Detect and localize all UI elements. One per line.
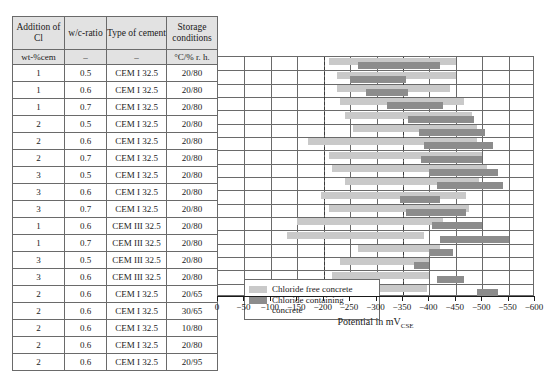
bar-chloride-containing [358, 62, 440, 69]
cell-wc-ratio: 0.5 [65, 252, 107, 269]
bar-chloride-containing [350, 76, 406, 83]
bar-chloride-containing [432, 222, 482, 229]
legend-item-chloride-free: Chloride free concrete [249, 284, 375, 294]
bar-chloride-containing [437, 182, 503, 189]
cell-addition: 3 [13, 167, 65, 184]
bar-chloride-containing [440, 236, 509, 243]
cell-addition: 1 [13, 99, 65, 116]
x-tick [376, 296, 377, 301]
bar-chloride-containing [419, 129, 485, 136]
grid-line [456, 57, 457, 295]
cell-cement-type: CEM I 32.5 [107, 99, 167, 116]
bar-chloride-free [297, 218, 442, 225]
cell-addition: 2 [13, 303, 65, 320]
cell-addition: 3 [13, 252, 65, 269]
cell-cement-type: CEM I 32.5 [107, 184, 167, 201]
cell-wc-ratio: 0.6 [65, 286, 107, 303]
cell-addition: 1 [13, 65, 65, 82]
cell-addition: 1 [13, 82, 65, 99]
cell-storage: 20/80 [167, 184, 218, 201]
cell-storage: 20/80 [167, 150, 218, 167]
cell-storage: 20/80 [167, 167, 218, 184]
legend-swatch-icon-free [249, 286, 267, 293]
table-row: 20.6CEM I 32.520/95 [13, 354, 218, 371]
cell-wc-ratio: 0.5 [65, 65, 107, 82]
cell-addition: 2 [13, 150, 65, 167]
cell-addition: 2 [13, 133, 65, 150]
cell-addition: 1 [13, 218, 65, 235]
unit-addition: wt-%cem [13, 50, 65, 65]
potential-chart: Chloride free concrete Chloride containi… [217, 16, 546, 297]
cell-storage: 20/80 [167, 252, 218, 269]
col-header-storage: Storage conditions [167, 17, 218, 50]
table-row: 20.6CEM I 32.520/80 [13, 133, 218, 150]
col-header-wc-ratio: w/c-ratio [65, 17, 107, 50]
cell-wc-ratio: 0.7 [65, 99, 107, 116]
table-row: 20.5CEM I 32.520/80 [13, 116, 218, 133]
cell-wc-ratio: 0.7 [65, 235, 107, 252]
cell-storage: 20/80 [167, 82, 218, 99]
grid-line [482, 57, 483, 295]
cell-wc-ratio: 0.5 [65, 167, 107, 184]
cell-wc-ratio: 0.6 [65, 184, 107, 201]
bar-chloride-containing [429, 249, 453, 256]
cell-storage: 20/80 [167, 116, 218, 133]
table-header-row: Addition of Cl w/c-ratio Type of cement … [13, 17, 218, 50]
x-axis-title-subscript: CSE [401, 322, 414, 330]
bar-chloride-containing [408, 116, 474, 123]
table-row: 10.6CEM III 32.520/80 [13, 218, 218, 235]
cell-cement-type: CEM I 32.5 [107, 167, 167, 184]
x-tick [534, 296, 535, 301]
cell-wc-ratio: 0.7 [65, 150, 107, 167]
table-row: 30.7CEM I 32.520/80 [13, 201, 218, 218]
bar-chloride-containing [437, 276, 463, 283]
bar-chloride-containing [477, 289, 498, 296]
unit-cement-type: – [107, 50, 167, 65]
x-tick [296, 296, 297, 301]
x-tick [508, 296, 509, 301]
cell-cement-type: CEM I 32.5 [107, 201, 167, 218]
col-header-cement-type: Type of cement [107, 17, 167, 50]
bar-chloride-containing [387, 102, 443, 109]
x-tick [217, 296, 218, 301]
cell-addition: 2 [13, 337, 65, 354]
cell-storage: 20/80 [167, 133, 218, 150]
parameters-table: Addition of Cl w/c-ratio Type of cement … [12, 16, 217, 371]
cell-cement-type: CEM III 32.5 [107, 269, 167, 286]
bar-chloride-containing [400, 196, 440, 203]
bar-chloride-free [332, 272, 430, 279]
table-row: 10.7CEM III 32.520/80 [13, 235, 218, 252]
table-row: 30.6CEM I 32.520/80 [13, 184, 218, 201]
cell-wc-ratio: 0.6 [65, 82, 107, 99]
cell-wc-ratio: 0.5 [65, 116, 107, 133]
table-row: 10.5CEM I 32.520/80 [13, 65, 218, 82]
x-tick [243, 296, 244, 301]
x-tick-label: −600 [514, 302, 554, 312]
cell-addition: 2 [13, 320, 65, 337]
x-tick [481, 296, 482, 301]
bar-chloride-containing [414, 262, 430, 269]
x-axis-title: Potential in mVCSE [217, 316, 534, 330]
cell-storage: 20/80 [167, 218, 218, 235]
x-tick [428, 296, 429, 301]
cell-addition: 3 [13, 201, 65, 218]
cell-addition: 1 [13, 235, 65, 252]
cell-addition: 2 [13, 116, 65, 133]
cell-addition: 3 [13, 269, 65, 286]
table-row: 30.6CEM III 32.520/80 [13, 269, 218, 286]
x-tick [323, 296, 324, 301]
table-row: 20.6CEM I 32.510/80 [13, 320, 218, 337]
cell-storage: 20/80 [167, 99, 218, 116]
x-tick [455, 296, 456, 301]
cell-wc-ratio: 0.6 [65, 320, 107, 337]
bar-chloride-containing [421, 156, 482, 163]
bar-chloride-free [287, 232, 424, 239]
bar-chloride-free [358, 245, 440, 252]
bar-chloride-free [321, 192, 466, 199]
table-row: 10.7CEM I 32.520/80 [13, 99, 218, 116]
grid-line [244, 57, 245, 295]
bar-chloride-containing [424, 142, 493, 149]
reference-line [324, 57, 325, 295]
cell-wc-ratio: 0.6 [65, 133, 107, 150]
